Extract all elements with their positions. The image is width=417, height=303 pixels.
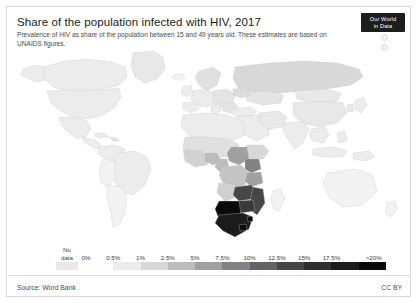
- country-peru-bolivia[interactable]: [99, 159, 115, 187]
- chart-frame: Share of the population infected with HI…: [6, 6, 411, 297]
- settings-dot-icon[interactable]: [381, 34, 388, 41]
- country-mexico[interactable]: [59, 117, 91, 139]
- country-indonesia[interactable]: [313, 147, 347, 157]
- country-iceland[interactable]: [171, 74, 185, 80]
- country-italy[interactable]: [211, 104, 221, 115]
- chart-footer: Source: Word Bank CC BY: [17, 280, 402, 294]
- legend-label-10: >20%: [366, 254, 382, 261]
- map-legend[interactable]: No data 0%0.5%1%2.5%5%7.5%10%12.5%15%17.…: [56, 245, 386, 270]
- country-kenya-uganda[interactable]: [245, 159, 261, 173]
- legend-swatch-6[interactable]: [250, 262, 277, 270]
- legend-label-1: 0.5%: [106, 254, 120, 261]
- country-iberia[interactable]: [183, 102, 199, 113]
- legend-swatch-no-data[interactable]: [56, 262, 78, 270]
- legend-swatch-10[interactable]: [359, 262, 386, 270]
- legend-label-6: 10%: [243, 254, 255, 261]
- world-map-svg[interactable]: [7, 45, 410, 243]
- chart-header: Share of the population infected with HI…: [17, 15, 347, 48]
- legend-labels: No data 0%0.5%1%2.5%5%7.5%10%12.5%15%17.…: [56, 245, 386, 261]
- country-philippines[interactable]: [337, 131, 347, 143]
- legend-label-0: 0%: [82, 254, 91, 261]
- legend-swatch-0[interactable]: [86, 262, 113, 270]
- country-australia[interactable]: [323, 169, 377, 207]
- country-caribbean[interactable]: [110, 137, 119, 141]
- country-usa[interactable]: [47, 88, 121, 119]
- country-canada[interactable]: [43, 59, 127, 91]
- legend-label-3: 2.5%: [161, 254, 175, 261]
- country-central-america[interactable]: [83, 137, 101, 149]
- country-mongolia-ne-china[interactable]: [295, 89, 341, 103]
- country-russia[interactable]: [233, 61, 363, 93]
- country-cuba[interactable]: [95, 133, 109, 138]
- legend-no-data-line1: No: [63, 246, 71, 253]
- logo-line-2: in Data: [374, 23, 392, 30]
- source-label: Source: Word Bank: [17, 284, 76, 291]
- country-sea[interactable]: [309, 127, 329, 143]
- country-eswatini[interactable]: [247, 216, 253, 222]
- country-madagascar[interactable]: [271, 189, 285, 211]
- legend-no-data-label: No data: [61, 246, 73, 261]
- logo-line-1: Our World: [370, 16, 396, 23]
- legend-swatch-1[interactable]: [113, 262, 140, 270]
- legend-label-9: 17.5%: [323, 254, 341, 261]
- legend-swatch-5[interactable]: [222, 262, 249, 270]
- legend-label-8: 15%: [298, 254, 310, 261]
- country-tanzania[interactable]: [245, 172, 263, 187]
- country-korea[interactable]: [347, 104, 354, 112]
- legend-color-bar[interactable]: [56, 262, 386, 270]
- our-world-in-data-logo[interactable]: Our World in Data: [361, 13, 405, 32]
- legend-label-4: 5%: [191, 254, 200, 261]
- legend-label-2: 1%: [136, 254, 145, 261]
- country-lesotho[interactable]: [239, 224, 247, 231]
- country-papua-new-guinea[interactable]: [353, 151, 375, 161]
- country-new-zealand[interactable]: [385, 201, 397, 217]
- country-india[interactable]: [283, 121, 309, 149]
- country-scandinavia[interactable]: [195, 67, 221, 91]
- country-uk-ireland[interactable]: [181, 85, 193, 97]
- country-japan[interactable]: [355, 97, 367, 113]
- country-south-africa[interactable]: [215, 213, 253, 237]
- legend-swatch-7[interactable]: [277, 262, 304, 270]
- country-morocco-algeria-libya-egypt[interactable]: [181, 113, 245, 141]
- world-map[interactable]: [7, 45, 410, 243]
- legend-swatch-8[interactable]: [304, 262, 331, 270]
- legend-swatch-4[interactable]: [195, 262, 222, 270]
- country-greenland[interactable]: [131, 51, 165, 83]
- legend-label-5: 7.5%: [215, 254, 229, 261]
- license-label[interactable]: CC BY: [381, 284, 402, 291]
- legend-label-7: 12.5%: [268, 254, 286, 261]
- legend-swatch-2[interactable]: [141, 262, 168, 270]
- footer-divider: [8, 275, 411, 276]
- legend-no-data-line2: data: [61, 254, 73, 261]
- page-title: Share of the population infected with HI…: [17, 15, 347, 29]
- legend-swatch-9[interactable]: [331, 262, 358, 270]
- legend-swatch-3[interactable]: [168, 262, 195, 270]
